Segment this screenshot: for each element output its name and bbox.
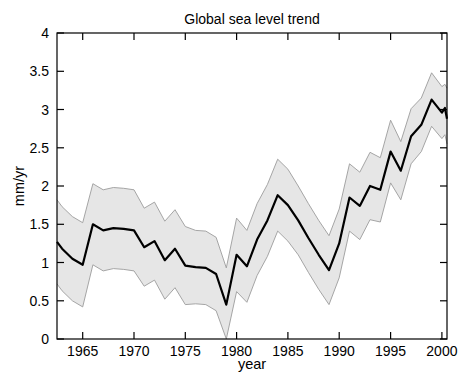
y-tick-label: 1.5: [30, 216, 50, 232]
chart-title: Global sea level trend: [184, 11, 319, 27]
y-tick-label: 3: [41, 102, 49, 118]
x-axis-label: year: [238, 356, 266, 372]
sea-level-trend-figure: 1965197019751980198519901995200000.511.5…: [0, 0, 476, 386]
y-tick-label: 0: [41, 331, 49, 347]
y-tick-label: 4: [41, 25, 49, 41]
x-tick-label: 1990: [324, 343, 355, 359]
y-tick-label: 2.5: [30, 140, 50, 156]
y-tick-label: 0.5: [30, 293, 50, 309]
y-tick-label: 3.5: [30, 63, 50, 79]
x-tick-label: 1985: [272, 343, 303, 359]
y-tick-label: 1: [41, 255, 49, 271]
x-tick-label: 2000: [426, 343, 457, 359]
y-axis-label: mm/yr: [11, 166, 27, 206]
confidence-band: [57, 73, 447, 339]
x-tick-label: 1995: [375, 343, 406, 359]
x-tick-label: 1965: [67, 343, 98, 359]
x-tick-label: 1975: [170, 343, 201, 359]
chart-canvas: 1965197019751980198519901995200000.511.5…: [0, 0, 476, 386]
x-tick-label: 1970: [118, 343, 149, 359]
y-tick-label: 2: [41, 178, 49, 194]
